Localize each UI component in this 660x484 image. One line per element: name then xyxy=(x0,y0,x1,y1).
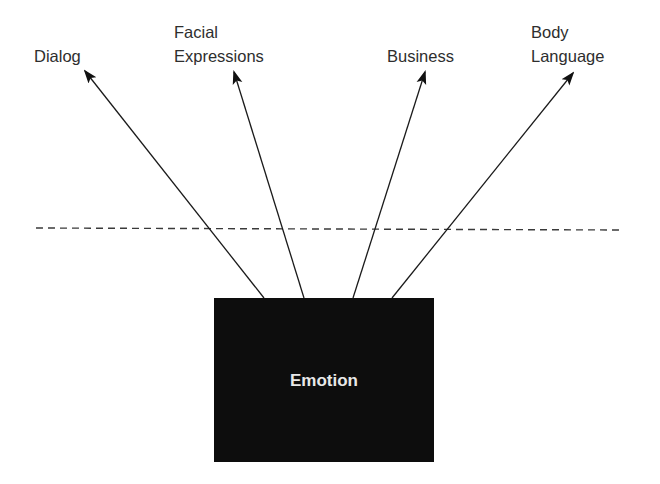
label-dialog: Dialog xyxy=(34,47,81,65)
label-expressions: Expressions xyxy=(174,47,264,65)
emotion-box: Emotion xyxy=(214,298,434,462)
label-language: Language xyxy=(531,47,604,65)
label-business: Business xyxy=(387,47,454,65)
dashed-separator-line xyxy=(36,228,622,230)
arrow-to-body-language xyxy=(392,73,573,298)
label-body: Body xyxy=(531,23,569,41)
arrows xyxy=(85,71,573,298)
arrow-to-dialog xyxy=(85,71,264,298)
arrow-to-business xyxy=(353,72,425,298)
branch-labels: Dialog Facial Expressions Business Body … xyxy=(34,23,604,65)
label-facial: Facial xyxy=(174,23,218,41)
emotion-label: Emotion xyxy=(290,371,358,390)
emotion-diagram: Dialog Facial Expressions Business Body … xyxy=(0,0,660,484)
arrow-to-facial-expressions xyxy=(234,72,304,298)
